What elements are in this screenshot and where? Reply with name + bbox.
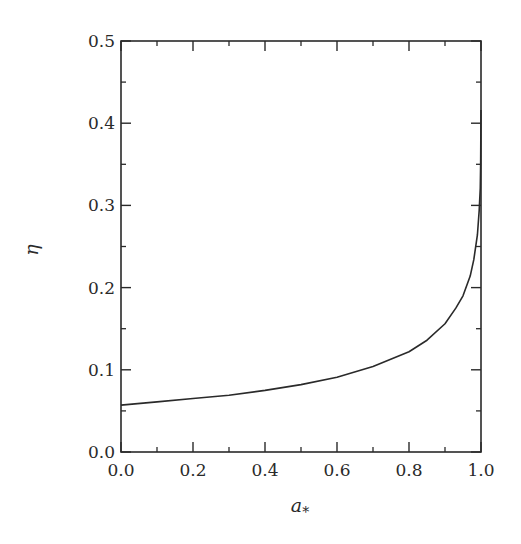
series-lines <box>121 110 481 405</box>
y-tick-label: 0.3 <box>88 195 115 215</box>
x-tick-label: 0.0 <box>107 460 134 480</box>
x-axis-label-subscript: * <box>302 504 309 520</box>
x-tick-label: 0.4 <box>251 460 278 480</box>
y-tick-label: 0.1 <box>88 360 115 380</box>
y-tick-label: 0.0 <box>88 442 115 462</box>
plot-area <box>121 41 481 452</box>
x-axis-ticks: 0.00.20.40.60.81.0 <box>107 41 494 480</box>
x-tick-label: 1.0 <box>467 460 494 480</box>
y-tick-label: 0.2 <box>88 278 115 298</box>
x-tick-label: 0.2 <box>179 460 206 480</box>
y-tick-label: 0.5 <box>88 31 115 51</box>
y-axis-label: η <box>20 244 42 256</box>
x-axis-label: a* <box>291 494 309 520</box>
x-axis-label-main: a <box>291 494 302 516</box>
chart: 0.00.20.40.60.81.0 0.00.10.20.30.40.5 η … <box>0 0 521 544</box>
y-axis-ticks: 0.00.10.20.30.40.5 <box>88 31 481 462</box>
efficiency-curve <box>121 110 481 405</box>
x-tick-label: 0.6 <box>323 460 350 480</box>
y-tick-label: 0.4 <box>88 113 115 133</box>
x-tick-label: 0.8 <box>395 460 422 480</box>
plot-frame <box>121 41 481 452</box>
